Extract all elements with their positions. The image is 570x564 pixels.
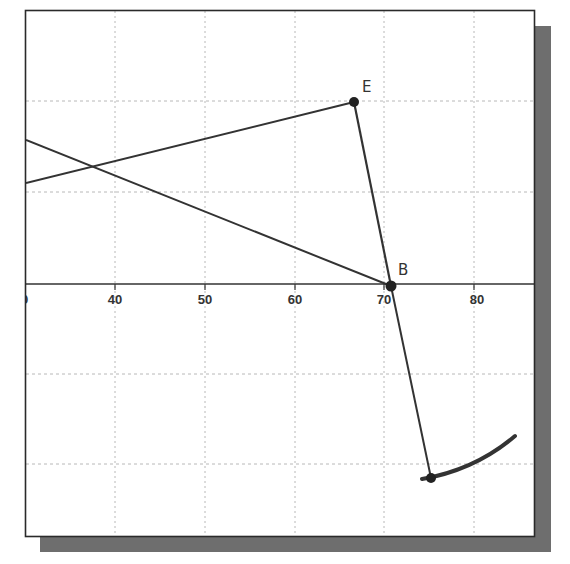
line-E-to-B xyxy=(354,102,391,286)
vertical-grid-lines xyxy=(115,11,474,536)
tick-label-70: 70 xyxy=(377,292,391,307)
frame-border xyxy=(26,11,535,537)
line-left-to-E xyxy=(26,102,354,183)
point-lower[interactable] xyxy=(426,473,436,483)
horizontal-grid-lines xyxy=(26,101,534,464)
axis-ticks xyxy=(115,284,474,290)
point-E[interactable] xyxy=(349,97,359,107)
construction-canvas: 0 40 50 60 70 80 E B xyxy=(0,0,570,564)
line-B-to-lower-point xyxy=(391,286,431,478)
tick-label-80: 80 xyxy=(470,292,484,307)
point-label-E: E xyxy=(362,78,371,96)
tick-label-60: 60 xyxy=(288,292,302,307)
tick-label-30: 0 xyxy=(21,292,28,307)
line-left-to-B xyxy=(26,140,391,286)
point-B[interactable] xyxy=(386,281,397,292)
tick-label-40: 40 xyxy=(108,292,122,307)
point-label-B: B xyxy=(398,261,408,279)
tick-label-50: 50 xyxy=(198,292,212,307)
arc-sketch xyxy=(422,436,515,479)
